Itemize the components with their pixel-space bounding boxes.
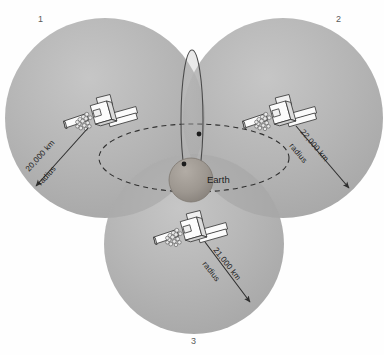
orbit-node-top: [197, 132, 202, 137]
earth-label: Earth: [207, 174, 230, 185]
circle-number-3: 3: [191, 336, 196, 346]
satellite-coverage-diagram: Earth 20,000 km radius 22,000 km radius …: [0, 0, 384, 355]
circle-number-1: 1: [38, 14, 43, 24]
circle-number-2: 2: [336, 14, 341, 24]
diagram-canvas: Earth 20,000 km radius 22,000 km radius …: [0, 0, 384, 355]
orbit-node-bottom: [182, 162, 187, 167]
